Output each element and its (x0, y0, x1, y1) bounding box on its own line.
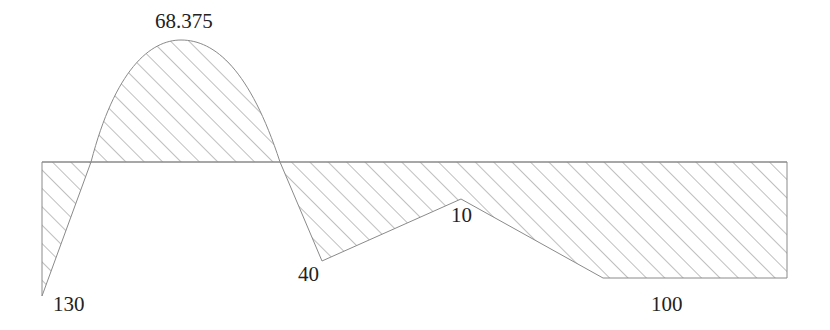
negative-moment-region-left (42, 162, 91, 296)
label-local-peak: 10 (451, 205, 472, 226)
label-trough-mid: 40 (298, 264, 319, 285)
positive-moment-region (91, 40, 280, 162)
label-peak-positive: 68.375 (155, 11, 213, 32)
label-right-end: 100 (651, 294, 683, 315)
label-left-end: 130 (53, 294, 85, 315)
moment-diagram (0, 0, 830, 330)
negative-moment-region-right (280, 162, 787, 278)
